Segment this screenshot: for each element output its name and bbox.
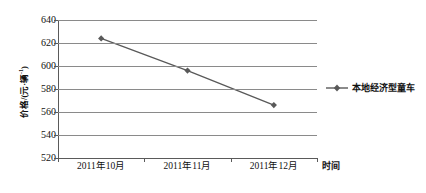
- legend-marker-icon: [326, 83, 348, 93]
- y-axis-tick-mark: [54, 66, 58, 67]
- y-axis-tick-label: 520: [22, 153, 56, 163]
- x-axis-line: [58, 158, 317, 159]
- x-axis-tick-label: 2011年10月: [58, 161, 144, 172]
- gridline: [58, 66, 317, 67]
- gridline: [58, 20, 317, 21]
- y-axis-tick-label: 620: [22, 38, 56, 48]
- legend: 本地经济型童车: [326, 82, 415, 94]
- y-axis-tick-labels: 640620600580560540520: [16, 0, 56, 193]
- data-point-marker: [184, 68, 190, 74]
- x-axis-tick-mark: [317, 158, 318, 162]
- y-axis-tick-mark: [54, 20, 58, 21]
- y-axis-tick-label: 580: [22, 84, 56, 94]
- y-axis-tick-mark: [54, 43, 58, 44]
- y-axis-tick-label: 560: [22, 107, 56, 117]
- gridline: [58, 112, 317, 113]
- y-axis-tick-label: 640: [22, 15, 56, 25]
- y-axis-tick-mark: [54, 112, 58, 113]
- x-axis-tick-label: 2011年12月: [231, 161, 317, 172]
- gridline: [58, 135, 317, 136]
- x-axis-title: 时间: [322, 160, 340, 172]
- y-axis-tick-mark: [54, 135, 58, 136]
- y-axis-tick-mark: [54, 89, 58, 90]
- y-axis-tick-label: 600: [22, 61, 56, 71]
- gridline: [58, 89, 317, 90]
- data-point-marker: [271, 102, 277, 108]
- legend-label-local-economy-stroller: 本地经济型童车: [352, 82, 415, 94]
- line-chart: 价格/(元·辆-1) 640620600580560540520 2011年10…: [0, 0, 426, 193]
- data-point-marker: [98, 35, 104, 41]
- x-axis-tick-label: 2011年11月: [145, 161, 231, 172]
- gridline: [58, 43, 317, 44]
- y-axis-tick-label: 540: [22, 130, 56, 140]
- plot-area: [58, 20, 317, 158]
